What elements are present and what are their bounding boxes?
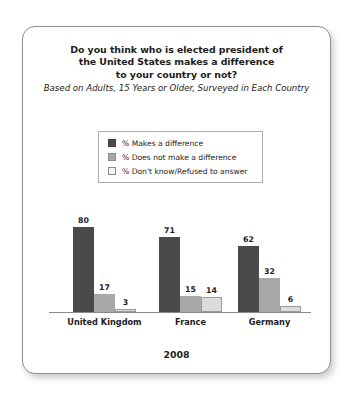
x-axis-line [49, 312, 311, 313]
bar-value-label: 62 [238, 235, 259, 244]
x-axis-category-label: Germany [225, 317, 315, 327]
bar-value-label: 6 [280, 295, 301, 304]
bar-value-label: 14 [201, 286, 222, 295]
bar-value-label: 71 [159, 226, 180, 235]
bar-value-label: 15 [180, 285, 201, 294]
bar-column: 32 [259, 202, 280, 312]
chart-footer-year: 2008 [23, 349, 330, 360]
bar-value-label: 80 [73, 216, 94, 225]
bar-column: 6 [280, 202, 301, 312]
bar[interactable] [180, 296, 201, 312]
bar-value-label: 17 [94, 283, 115, 292]
page-root: Do you think who is elected president of… [0, 0, 353, 404]
bar[interactable] [280, 306, 301, 312]
x-axis-category-label: United Kingdom [60, 317, 150, 327]
legend-item-label: % Makes a difference [122, 139, 203, 148]
bar-value-label: 3 [115, 298, 136, 307]
legend-swatch-icon [108, 167, 116, 175]
chart-subtitle: Based on Adults, 15 Years or Older, Surv… [23, 82, 330, 95]
legend-item-label: % Don't know/Refused to answer [122, 167, 247, 176]
bar-group: 62326 [238, 202, 301, 312]
x-axis-category-label: France [146, 317, 236, 327]
chart-title-line-2: the United States makes a difference [23, 56, 330, 68]
bar-column: 62 [238, 202, 259, 312]
chart-title-line-1: Do you think who is elected president of [23, 44, 330, 56]
bar-column: 14 [201, 202, 222, 312]
bar-column: 80 [73, 202, 94, 312]
bar-column: 71 [159, 202, 180, 312]
bar-group: 711514 [159, 202, 222, 312]
chart-title-line-3: to your country or not? [23, 69, 330, 81]
bar[interactable] [159, 237, 180, 312]
bar-column: 17 [94, 202, 115, 312]
legend-item-dont-know[interactable]: % Don't know/Refused to answer [108, 164, 254, 178]
legend-item-no-difference[interactable]: % Does not make a difference [108, 150, 254, 164]
legend-swatch-icon [108, 139, 116, 147]
chart-plot-area: 8017371151462326 [49, 203, 311, 313]
bar[interactable] [238, 246, 259, 312]
x-axis-category-labels: United KingdomFranceGermany [49, 317, 311, 329]
chart-card: Do you think who is elected president of… [22, 26, 331, 374]
bar[interactable] [94, 294, 115, 312]
legend-item-makes-difference[interactable]: % Makes a difference [108, 136, 254, 150]
bar[interactable] [259, 278, 280, 312]
bar[interactable] [73, 227, 94, 312]
bar-column: 15 [180, 202, 201, 312]
bar-value-label: 32 [259, 267, 280, 276]
legend-item-label: % Does not make a difference [122, 153, 236, 162]
legend-swatch-icon [108, 153, 116, 161]
chart-legend: % Makes a difference % Does not make a d… [98, 131, 263, 183]
chart-title-block: Do you think who is elected president of… [23, 44, 330, 94]
bar-group: 80173 [73, 202, 136, 312]
bar[interactable] [201, 297, 222, 312]
bar-column: 3 [115, 202, 136, 312]
bar[interactable] [115, 309, 136, 312]
